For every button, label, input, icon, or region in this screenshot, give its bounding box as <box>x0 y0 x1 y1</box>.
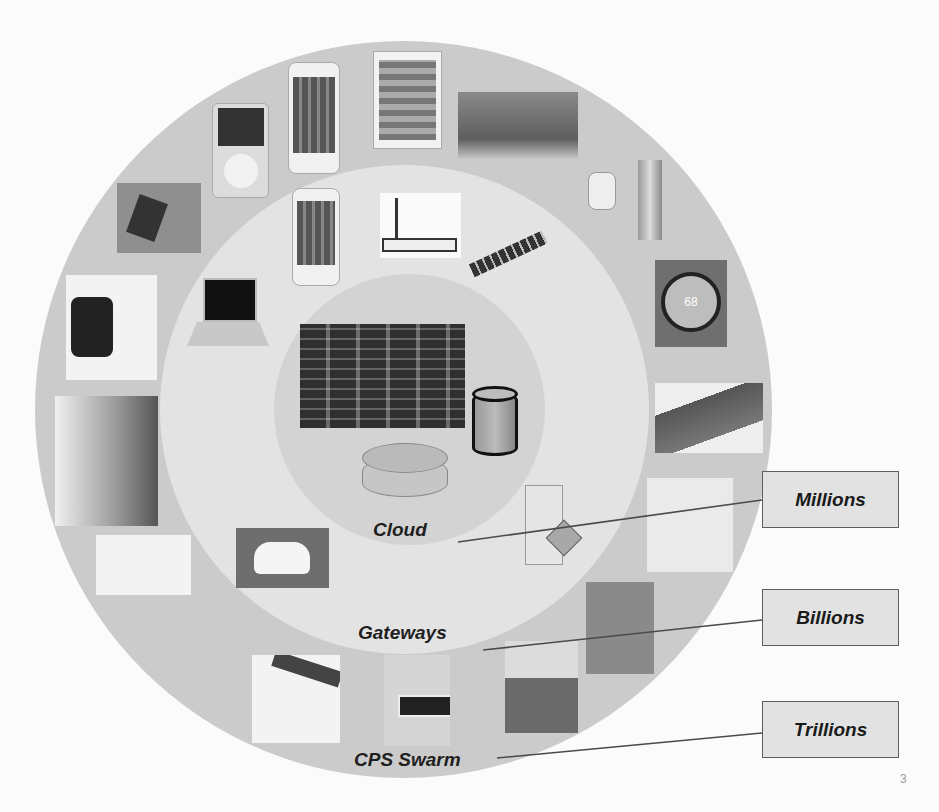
cloud-label: Cloud <box>373 519 427 541</box>
trillions-box: Trillions <box>762 701 899 758</box>
cps-swarm-label: CPS Swarm <box>354 749 461 771</box>
leader-lines <box>0 0 939 812</box>
gateways-label: Gateways <box>358 622 447 644</box>
page-number: 3 <box>900 772 907 786</box>
billions-box: Billions <box>762 589 899 646</box>
millions-box: Millions <box>762 471 899 528</box>
